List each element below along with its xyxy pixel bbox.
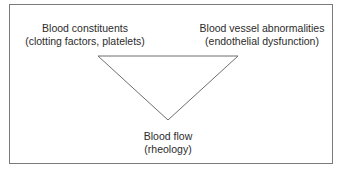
node-subtitle: (rheology) [118, 143, 218, 156]
node-subtitle: (clotting factors, platelets) [15, 35, 155, 48]
node-blood-constituents: Blood constituents (clotting factors, pl… [15, 22, 155, 48]
node-blood-flow: Blood flow (rheology) [118, 130, 218, 156]
node-blood-vessel-abnormalities: Blood vessel abnormalities (endothelial … [192, 22, 332, 48]
node-title: Blood flow [118, 130, 218, 143]
node-title: Blood constituents [15, 22, 155, 35]
node-title: Blood vessel abnormalities [192, 22, 332, 35]
node-subtitle: (endothelial dysfunction) [192, 35, 332, 48]
triangle-shape [98, 56, 238, 120]
